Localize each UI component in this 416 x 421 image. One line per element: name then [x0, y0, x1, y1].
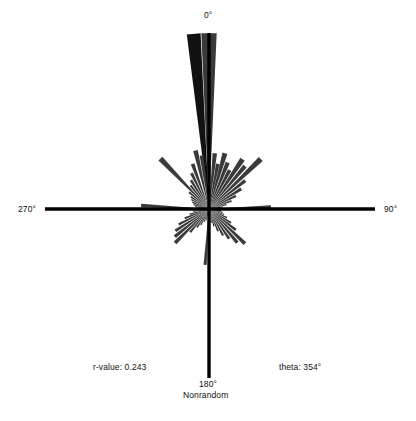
rose-diagram-plot: 0° 90° 270° 180° Nonrandom r-value: 0.24… — [0, 0, 416, 421]
axis-label-0deg: 0° — [204, 10, 212, 20]
axis-cross — [45, 33, 375, 378]
r-value-annotation: r-value: 0.243 — [93, 362, 146, 372]
rose-petal — [209, 209, 246, 245]
theta-annotation: theta: 354° — [279, 362, 321, 372]
axis-label-90deg: 90° — [384, 204, 397, 214]
rose-diagram-canvas — [0, 0, 416, 421]
axis-label-180deg: 180° — [199, 379, 217, 389]
petal-group — [141, 33, 271, 265]
randomness-annotation: Nonrandom — [183, 390, 228, 400]
axis-label-270deg: 270° — [18, 204, 36, 214]
